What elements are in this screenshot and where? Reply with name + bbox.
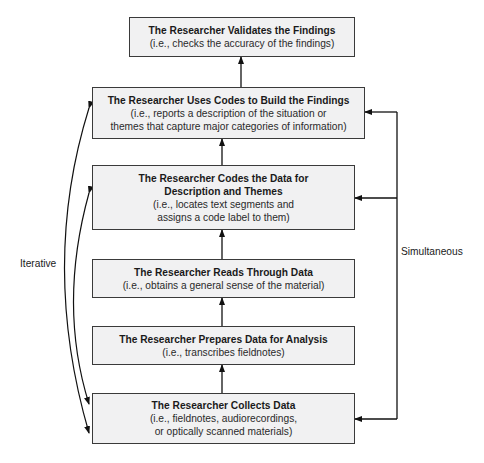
step-desc: assigns a code label to them): [93, 211, 354, 224]
step-desc: (i.e., checks the accuracy of the findin…: [130, 37, 354, 50]
step-title: The Researcher Validates the Findings: [130, 24, 354, 37]
simultaneous-label: Simultaneous: [401, 246, 463, 257]
step-code-box: The Researcher Codes the Data for Descri…: [92, 165, 355, 230]
step-prepare-box: The Researcher Prepares Data for Analysi…: [92, 326, 355, 365]
step-desc: (i.e., fieldnotes, audiorecordings,: [93, 412, 354, 425]
step-title: The Researcher Uses Codes to Build the F…: [93, 94, 364, 107]
step-read-box: The Researcher Reads Through Data (i.e.,…: [92, 259, 355, 298]
step-collect-box: The Researcher Collects Data (i.e., fiel…: [92, 393, 355, 444]
step-desc: (i.e., obtains a general sense of the ma…: [93, 279, 354, 292]
step-title: The Researcher Prepares Data for Analysi…: [93, 333, 354, 346]
step-desc: or optically scanned materials): [93, 425, 354, 438]
step-title: The Researcher Codes the Data for: [93, 172, 354, 185]
step-title: The Researcher Collects Data: [93, 399, 354, 412]
step-validate-box: The Researcher Validates the Findings (i…: [129, 17, 355, 57]
step-title: Description and Themes: [93, 185, 354, 198]
step-desc: themes that capture major categories of …: [93, 120, 364, 133]
step-build-box: The Researcher Uses Codes to Build the F…: [92, 87, 365, 139]
step-desc: (i.e., reports a description of the situ…: [93, 107, 364, 120]
iterative-curve-outer: [65, 108, 90, 433]
iterative-curve-inner: [74, 193, 90, 404]
step-desc: (i.e., locates text segments and: [93, 198, 354, 211]
step-title: The Researcher Reads Through Data: [93, 266, 354, 279]
iterative-label: Iterative: [20, 258, 56, 269]
step-desc: (i.e., transcribes fieldnotes): [93, 346, 354, 359]
